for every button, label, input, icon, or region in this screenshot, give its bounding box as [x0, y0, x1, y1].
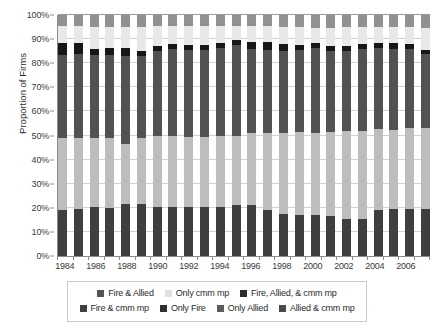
bar-1998 — [279, 15, 288, 256]
x-axis-tick-mark — [429, 256, 430, 260]
x-axis-tick-label: 2000 — [303, 261, 322, 271]
bar-segment — [358, 27, 367, 44]
x-axis-tick-mark — [290, 256, 291, 260]
bar-segment — [184, 137, 193, 207]
bar-segment — [105, 15, 114, 27]
bar-segment — [279, 214, 288, 256]
bar-segment — [326, 28, 335, 46]
bar-segment — [374, 210, 383, 256]
x-axis-tick-mark — [166, 256, 167, 260]
x-axis-tick-label: 1990 — [148, 261, 167, 271]
bar-segment — [105, 208, 114, 256]
bar-1988 — [121, 15, 130, 256]
bar-segment — [342, 219, 351, 256]
bar-segment — [421, 128, 430, 209]
legend-label: Allied & cmm mp — [290, 304, 355, 313]
bar-segment — [153, 136, 162, 207]
bar-segment — [232, 136, 241, 206]
x-axis-tick-mark — [352, 256, 353, 260]
bar-segment — [137, 15, 146, 27]
bar-segment — [168, 26, 177, 44]
x-axis-tick-mark — [243, 256, 244, 260]
bar-segment — [58, 43, 67, 55]
bar-segment — [216, 15, 225, 26]
bar-segment — [153, 51, 162, 135]
bar-segment — [232, 15, 241, 26]
bar-segment — [263, 50, 272, 133]
bar-segment — [121, 144, 130, 204]
bar-segment — [342, 27, 351, 46]
y-axis-tick-mark — [50, 183, 54, 184]
x-axis-tick-mark — [119, 256, 120, 260]
bar-segment — [90, 27, 99, 49]
bar-segment — [311, 15, 320, 28]
x-axis-tick-label: 1992 — [179, 261, 198, 271]
legend-item[interactable]: Fire, Allied, & cmm mp — [240, 289, 337, 298]
y-axis-tick-mark — [50, 63, 54, 64]
bar-segment — [389, 130, 398, 210]
bar-2006 — [405, 15, 414, 256]
legend-item[interactable]: Fire & Allied — [97, 289, 153, 298]
bar-segment — [405, 27, 414, 44]
bar-segment — [389, 209, 398, 256]
legend-swatch-icon — [165, 290, 172, 297]
legend-item[interactable]: Only cmm mp — [165, 289, 229, 298]
bar-segment — [121, 27, 130, 47]
bar-segment — [405, 209, 414, 256]
bar-segment — [263, 15, 272, 26]
y-axis-tick-mark — [50, 231, 54, 232]
bar-segment — [90, 15, 99, 27]
bar-2002 — [342, 15, 351, 256]
legend-item[interactable]: Only Allied — [217, 304, 268, 313]
x-axis-tick-mark — [88, 256, 89, 260]
bar-segment — [184, 15, 193, 26]
bar-segment — [200, 26, 209, 45]
bar-segment — [374, 129, 383, 210]
x-axis-tick-label: 1984 — [55, 261, 74, 271]
legend-item[interactable]: Fire & cmm mp — [80, 304, 149, 313]
bar-segment — [326, 15, 335, 28]
bar-segment — [58, 15, 67, 26]
chart-figure: 0%10%20%30%40%50%60%70%80%90%100% Propor… — [0, 0, 435, 332]
legend-label: Fire & Allied — [108, 289, 153, 298]
legend-label: Only Allied — [228, 304, 268, 313]
bar-segment — [74, 138, 83, 209]
bar-segment — [374, 27, 383, 43]
x-axis-tick-mark — [398, 256, 399, 260]
bar-segment — [200, 15, 209, 26]
bar-segment — [58, 138, 67, 210]
y-axis-title: Proportion of Firms — [17, 14, 28, 174]
bar-segment — [342, 51, 351, 131]
bar-segment — [121, 204, 130, 256]
y-axis-tick-label: 0% — [36, 251, 49, 261]
legend-item[interactable]: Allied & cmm mp — [279, 304, 355, 313]
bar-segment — [74, 54, 83, 138]
bar-segment — [137, 56, 146, 138]
bar-2004 — [374, 15, 383, 256]
bar-segment — [216, 26, 225, 43]
y-axis-tick-label: 20% — [32, 203, 49, 213]
legend-row: Fire & cmm mpOnly FireOnly AlliedAllied … — [74, 301, 360, 316]
bar-1987 — [105, 15, 114, 256]
bar-segment — [184, 50, 193, 137]
bar-segment — [74, 15, 83, 26]
y-axis-tick-mark — [50, 159, 54, 160]
y-axis-tick-label: 40% — [32, 155, 49, 165]
y-axis-tick-label: 80% — [32, 58, 49, 68]
bar-segment — [200, 207, 209, 256]
bar-segment — [153, 15, 162, 26]
x-axis-tick-mark — [414, 256, 415, 260]
x-axis-tick-mark — [57, 256, 58, 260]
bar-segment — [121, 56, 130, 144]
x-axis-tick-mark — [336, 256, 337, 260]
bar-segment — [184, 207, 193, 256]
bar-segment — [311, 215, 320, 256]
bar-1985 — [74, 15, 83, 256]
legend-item[interactable]: Only Fire — [160, 304, 206, 313]
legend-label: Only Fire — [171, 304, 206, 313]
y-axis-tick-mark — [50, 207, 54, 208]
bar-segment — [58, 210, 67, 256]
bar-segment — [168, 49, 177, 136]
bar-segment — [295, 15, 304, 27]
x-axis-tick-mark — [383, 256, 384, 260]
